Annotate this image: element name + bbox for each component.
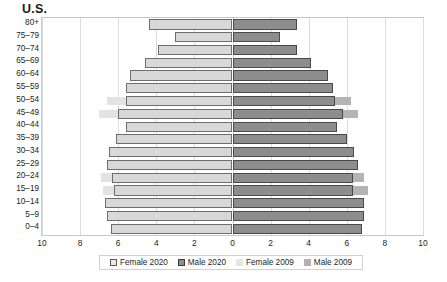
bar-m2020 <box>233 45 298 55</box>
bar-m2020 <box>233 134 347 144</box>
age-group-label: 80+ <box>1 19 39 27</box>
gridline <box>423 18 424 235</box>
legend-swatch-icon <box>236 259 243 266</box>
x-tick-label: 8 <box>68 238 92 248</box>
legend-item[interactable]: Female 2020 <box>110 258 168 267</box>
x-tick-label: 6 <box>335 238 359 248</box>
bar-f2020 <box>126 122 233 132</box>
bar-f2020 <box>126 96 233 106</box>
bar-f2020 <box>130 70 233 80</box>
legend-swatch-icon <box>304 259 311 266</box>
x-tick-label: 0 <box>221 238 245 248</box>
age-group-label: 20–24 <box>1 172 39 180</box>
bar-m2020 <box>233 109 343 119</box>
age-group-label: 50–54 <box>1 96 39 104</box>
age-group-label: 60–64 <box>1 70 39 78</box>
pyramid-row <box>42 184 423 197</box>
plot-area <box>41 17 424 236</box>
pyramid-row <box>42 18 423 31</box>
age-group-label: 0–4 <box>1 223 39 231</box>
pyramid-row <box>42 120 423 133</box>
pyramid-row <box>42 82 423 95</box>
bar-m2020 <box>233 58 311 68</box>
bar-m2020 <box>233 211 364 221</box>
x-tick-label: 6 <box>106 238 130 248</box>
bar-f2020 <box>126 83 233 93</box>
pyramid-row <box>42 95 423 108</box>
x-tick-label: 8 <box>373 238 397 248</box>
bar-m2020 <box>233 83 334 93</box>
chart-legend: Female 2020Male 2020Female 2009Male 2009 <box>99 255 363 270</box>
bar-m2020 <box>233 122 338 132</box>
age-group-label: 55–59 <box>1 83 39 91</box>
x-tick-label: 4 <box>297 238 321 248</box>
legend-swatch-icon <box>110 259 117 266</box>
bar-m2020 <box>233 160 359 170</box>
bar-f2020 <box>116 134 232 144</box>
bar-m2020 <box>233 96 336 106</box>
legend-label: Female 2020 <box>120 258 168 267</box>
age-group-label: 70–74 <box>1 45 39 53</box>
pyramid-row <box>42 69 423 82</box>
pyramid-row <box>42 171 423 184</box>
population-pyramid-chart: U.S. 80+75–7970–7465–6960–6455–5950–5445… <box>0 0 447 282</box>
pyramid-row <box>42 209 423 222</box>
pyramid-row <box>42 44 423 57</box>
y-axis-age-labels: 80+75–7970–7465–6960–6455–5950–5445–4940… <box>0 17 39 236</box>
legend-label: Male 2009 <box>314 258 352 267</box>
bar-m2020 <box>233 224 363 234</box>
pyramid-row <box>42 158 423 171</box>
legend-swatch-icon <box>178 259 185 266</box>
age-group-label: 30–34 <box>1 147 39 155</box>
pyramid-row <box>42 197 423 210</box>
legend-label: Female 2009 <box>246 258 294 267</box>
age-group-label: 35–39 <box>1 134 39 142</box>
legend-item[interactable]: Female 2009 <box>236 258 294 267</box>
bar-f2020 <box>158 45 232 55</box>
x-tick-label: 10 <box>411 238 435 248</box>
bar-f2020 <box>175 32 232 42</box>
bar-m2020 <box>233 185 353 195</box>
bar-f2020 <box>114 185 232 195</box>
age-group-label: 65–69 <box>1 57 39 65</box>
pyramid-row <box>42 222 423 235</box>
bar-f2020 <box>105 198 233 208</box>
chart-title: U.S. <box>22 2 47 16</box>
x-tick-label: 10 <box>30 238 54 248</box>
bar-f2020 <box>111 224 233 234</box>
age-group-label: 75–79 <box>1 32 39 40</box>
age-group-label: 45–49 <box>1 109 39 117</box>
age-group-label: 15–19 <box>1 185 39 193</box>
bar-f2020 <box>107 160 233 170</box>
bar-m2020 <box>233 32 281 42</box>
age-group-label: 25–29 <box>1 160 39 168</box>
bar-f2020 <box>145 58 233 68</box>
pyramid-row <box>42 56 423 69</box>
age-group-label: 40–44 <box>1 121 39 129</box>
age-group-label: 5–9 <box>1 211 39 219</box>
pyramid-row <box>42 31 423 44</box>
x-axis-tick-labels: 1086420246810 <box>41 238 424 252</box>
legend-item[interactable]: Male 2020 <box>178 258 226 267</box>
bar-m2020 <box>233 173 353 183</box>
pyramid-row <box>42 107 423 120</box>
legend-item[interactable]: Male 2009 <box>304 258 352 267</box>
bar-f2020 <box>109 147 233 157</box>
bar-f2020 <box>118 109 232 119</box>
pyramid-row <box>42 133 423 146</box>
bar-f2020 <box>112 173 232 183</box>
bar-m2020 <box>233 198 364 208</box>
pyramid-row <box>42 146 423 159</box>
x-tick-label: 2 <box>182 238 206 248</box>
x-tick-label: 4 <box>144 238 168 248</box>
bar-m2020 <box>233 70 328 80</box>
legend-label: Male 2020 <box>188 258 226 267</box>
age-group-label: 10–14 <box>1 198 39 206</box>
bar-f2020 <box>149 19 233 29</box>
bar-m2020 <box>233 147 355 157</box>
x-tick-label: 2 <box>259 238 283 248</box>
bar-m2020 <box>233 19 298 29</box>
bar-f2020 <box>107 211 233 221</box>
